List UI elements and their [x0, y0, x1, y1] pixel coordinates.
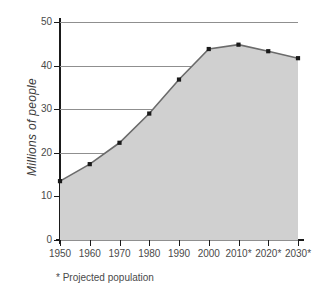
data-point-2030*: [296, 56, 300, 60]
population-area-chart: Millions of people 01020304050 195019601…: [0, 0, 323, 297]
area-fill: [60, 45, 298, 240]
x-tick-2000: [209, 240, 210, 246]
data-point-2010*: [236, 43, 240, 47]
x-tick-label-1980: 1980: [138, 248, 160, 259]
x-tick-label-1970: 1970: [108, 248, 130, 259]
data-point-1970: [117, 141, 121, 145]
data-point-1990: [177, 77, 181, 81]
x-tick-label-1960: 1960: [79, 248, 101, 259]
data-point-1980: [147, 111, 151, 115]
data-point-1960: [88, 162, 92, 166]
x-tick-label-2030*: 2030*: [285, 248, 311, 259]
y-tick-label-0: 0: [8, 234, 52, 245]
data-point-2000: [207, 47, 211, 51]
x-tick-1970: [120, 240, 121, 246]
chart-title-sliver: [46, 0, 276, 3]
footnote: * Projected population: [56, 272, 154, 283]
y-tick-label-30: 30: [8, 103, 52, 114]
x-tick-label-1950: 1950: [49, 248, 71, 259]
x-tick-1980: [149, 240, 150, 246]
y-tick-label-10: 10: [8, 190, 52, 201]
plot-area: [60, 22, 298, 240]
x-tick-label-2020*: 2020*: [255, 248, 281, 259]
y-tick-label-40: 40: [8, 60, 52, 71]
x-tick-label-2000: 2000: [198, 248, 220, 259]
series-area-line: [60, 22, 298, 240]
x-tick-1990: [179, 240, 180, 246]
y-tick-label-20: 20: [8, 147, 52, 158]
x-tick-1950: [60, 240, 61, 246]
x-tick-2010*: [239, 240, 240, 246]
y-tick-label-50: 50: [8, 16, 52, 27]
data-point-2020*: [266, 49, 270, 53]
x-tick-label-1990: 1990: [168, 248, 190, 259]
x-tick-2030*: [298, 240, 299, 246]
data-point-1950: [58, 179, 62, 183]
x-tick-1960: [90, 240, 91, 246]
x-tick-2020*: [268, 240, 269, 246]
x-tick-label-2010*: 2010*: [225, 248, 251, 259]
